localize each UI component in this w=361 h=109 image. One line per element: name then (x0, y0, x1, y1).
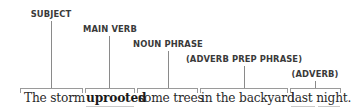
underline-adverb-last (291, 106, 315, 107)
connector-subject (51, 21, 52, 88)
label-main-verb: MAIN VERB (83, 25, 137, 33)
phrase-noun-phrase: some trees (138, 92, 204, 104)
connector-main-verb (109, 36, 110, 88)
underline-main-verb (86, 106, 134, 107)
connector-adverb (315, 81, 316, 88)
label-subject: SUBJECT (31, 10, 72, 18)
phrase-adverb-prep-phrase: in the backyard (201, 92, 295, 104)
label-adverb: (ADVERB) (292, 70, 339, 78)
label-adverb-prep-phrase: (ADVERB PREP PHRASE) (186, 55, 302, 63)
label-noun-phrase: NOUN PHRASE (133, 40, 203, 48)
sentence-diagram: SUBJECT MAIN VERB NOUN PHRASE (ADVERB PR… (0, 0, 361, 109)
connector-noun-phrase (168, 51, 169, 88)
phrase-subject: The storm (24, 92, 85, 104)
phrase-adverb: last night. (291, 92, 351, 104)
connector-adverb-prep-phrase (244, 66, 245, 88)
underline-adverb-night (318, 106, 340, 107)
